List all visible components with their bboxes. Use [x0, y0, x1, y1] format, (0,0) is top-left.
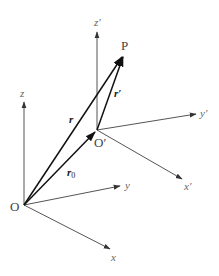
y-prime-axis: [97, 114, 196, 130]
position-vectors: r r′ r0: [24, 57, 123, 205]
vector-r-label: r: [69, 113, 74, 125]
origin-label: O: [10, 199, 19, 214]
vector-r0: [24, 132, 95, 205]
moving-origin-label: O′: [94, 135, 106, 150]
y-axis-label: y: [124, 179, 130, 191]
vector-r: [24, 57, 122, 205]
z-axis-label: z: [19, 87, 25, 99]
x-axis-label: x: [110, 251, 116, 263]
vector-r0-label: r0: [67, 166, 75, 180]
x-prime-axis-label: x′: [183, 180, 192, 192]
y-axis: [24, 186, 120, 205]
z-prime-axis-label: z′: [93, 16, 101, 28]
x-prime-axis: [97, 130, 182, 179]
moving-frame: z′ y′ x′ O′: [93, 16, 208, 192]
point-p-label: P: [121, 38, 128, 53]
y-prime-axis-label: y′: [199, 107, 208, 119]
frame-translation-diagram: z y x O z′ y′ x′ O′ r r′ r0 P: [0, 0, 219, 276]
vector-r-prime-label: r′: [114, 87, 121, 99]
x-axis: [24, 205, 110, 249]
